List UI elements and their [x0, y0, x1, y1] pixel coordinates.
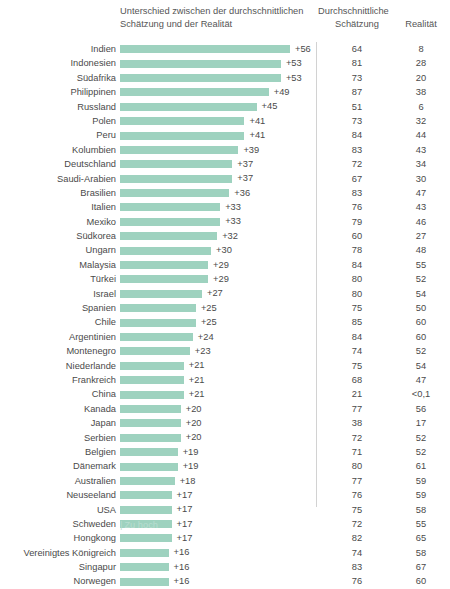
estimate-value: 68 — [318, 374, 396, 386]
reality-value: 59 — [396, 489, 446, 501]
bar-wrapper: +21 — [120, 376, 184, 384]
reality-value: 46 — [396, 216, 446, 228]
bar-value-label: +23 — [195, 345, 211, 357]
bar-value-label: +18 — [180, 475, 196, 487]
bar-wrapper: +29 — [120, 275, 208, 283]
table-row: Neuseeland+177659 — [0, 488, 450, 502]
estimate-value: 21 — [318, 388, 396, 400]
difference-bar — [120, 304, 196, 312]
difference-bar — [120, 146, 238, 154]
table-row: Deutschland+377234 — [0, 157, 450, 171]
country-label: Brasilien — [80, 187, 116, 199]
difference-bar — [120, 88, 269, 96]
column-header-difference: Unterschied zwischen der durchschnittlic… — [120, 5, 310, 30]
bar-wrapper: +17 — [120, 491, 172, 499]
table-row: Malaysia+298455 — [0, 258, 450, 272]
difference-bar — [120, 160, 232, 168]
bar-value-label: +49 — [274, 86, 290, 98]
estimate-value: 60 — [318, 230, 396, 242]
bar-value-label: +25 — [201, 302, 217, 314]
country-label: Kanada — [84, 403, 116, 415]
table-row: Indonesien+538128 — [0, 56, 450, 70]
reality-value: 44 — [396, 129, 446, 141]
reality-value: 55 — [396, 259, 446, 271]
bar-value-label: +24 — [198, 331, 214, 343]
bar-value-label: +19 — [183, 460, 199, 472]
difference-bar — [120, 117, 244, 125]
estimate-value: 87 — [318, 86, 396, 98]
bar-wrapper: +32 — [120, 232, 217, 240]
table-row: Vereinigtes Königreich+167458 — [0, 546, 450, 560]
reality-value: 59 — [396, 475, 446, 487]
difference-bar — [120, 261, 208, 269]
table-row: Argentinien+248460 — [0, 330, 450, 344]
country-label: Polen — [92, 115, 116, 127]
reality-value: 54 — [396, 288, 446, 300]
bar-wrapper: +30 — [120, 247, 211, 255]
bar-wrapper: +41 — [120, 132, 244, 140]
bar-value-label: +21 — [189, 374, 205, 386]
estimate-value: 84 — [318, 331, 396, 343]
bar-value-label: +17 — [177, 518, 193, 530]
bar-value-label: +20 — [186, 431, 202, 443]
difference-bar — [120, 218, 220, 226]
bar-wrapper: +36 — [120, 189, 229, 197]
estimate-value: 38 — [318, 417, 396, 429]
table-row: Frankreich+216847 — [0, 373, 450, 387]
country-label: Belgien — [85, 446, 116, 458]
reality-value: 43 — [396, 201, 446, 213]
difference-bar — [120, 203, 220, 211]
estimate-title-line2: Schätzung — [318, 18, 396, 31]
table-row: Südkorea+326027 — [0, 229, 450, 243]
bar-value-label: +27 — [207, 287, 223, 299]
table-row: Hongkong+178265 — [0, 531, 450, 545]
estimate-title-line1: Durchschnittliche — [318, 5, 396, 18]
country-label: Montenegro — [66, 345, 116, 357]
reality-value: 60 — [396, 575, 446, 587]
estimate-value: 73 — [318, 72, 396, 84]
legend-tick-icon: | — [120, 520, 122, 530]
table-row: Indien+56648 — [0, 42, 450, 56]
difference-bar — [120, 103, 257, 111]
bar-value-label: +53 — [286, 57, 302, 69]
difference-bar — [120, 45, 290, 53]
country-label: Niederlande — [66, 360, 116, 372]
bar-value-label: +41 — [249, 115, 265, 127]
reality-value: 67 — [396, 561, 446, 573]
country-label: Ungarn — [86, 244, 117, 256]
reality-value: 48 — [396, 244, 446, 256]
bar-wrapper: +21 — [120, 391, 184, 399]
table-row: Belgien+197152 — [0, 445, 450, 459]
bar-value-label: +16 — [174, 561, 190, 573]
country-label: Deutschland — [64, 158, 116, 170]
bar-wrapper: +16 — [120, 563, 169, 571]
country-label: Saudi-Arabien — [57, 173, 116, 185]
bar-wrapper: +56 — [120, 45, 290, 53]
bar-value-label: +25 — [201, 316, 217, 328]
bar-wrapper: +25 — [120, 304, 196, 312]
bar-wrapper: +41 — [120, 117, 244, 125]
legend-zu-hoch: |Zu hoch — [120, 519, 158, 531]
country-label: Japan — [91, 417, 116, 429]
country-label: Serbien — [84, 432, 116, 444]
country-label: Israel — [93, 288, 116, 300]
reality-value: 38 — [396, 86, 446, 98]
bar-wrapper: +17 — [120, 534, 172, 542]
estimate-value: 75 — [318, 360, 396, 372]
bar-wrapper: +19 — [120, 463, 178, 471]
difference-bar — [120, 132, 244, 140]
difference-bar — [120, 578, 169, 586]
country-label: Spanien — [82, 302, 116, 314]
country-label: Russland — [77, 101, 116, 113]
bar-value-label: +39 — [243, 144, 259, 156]
estimate-value: 71 — [318, 446, 396, 458]
difference-bar — [120, 391, 184, 399]
bar-wrapper: +20 — [120, 434, 181, 442]
bar-wrapper: +21 — [120, 362, 184, 370]
estimate-value: 51 — [318, 101, 396, 113]
difference-bar — [120, 347, 190, 355]
estimate-value: 85 — [318, 316, 396, 328]
bar-value-label: +17 — [177, 532, 193, 544]
table-row: Saudi-Arabien+376730 — [0, 172, 450, 186]
estimate-value: 84 — [318, 259, 396, 271]
